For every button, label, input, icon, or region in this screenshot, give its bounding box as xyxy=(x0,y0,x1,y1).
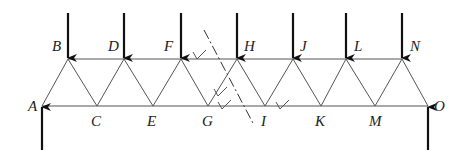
member-BC xyxy=(68,59,97,106)
member-JK xyxy=(293,59,321,106)
joint-label-o: O xyxy=(434,98,445,114)
member-CD xyxy=(97,59,124,106)
truss-svg: ABCDEFGHIJKLMNO xyxy=(0,0,466,158)
joint-label-d: D xyxy=(107,38,119,54)
member-HI xyxy=(237,59,265,106)
joint-label-e: E xyxy=(146,113,156,129)
check-mark-icon xyxy=(276,100,289,109)
member-NO xyxy=(402,59,428,106)
member-DE xyxy=(124,59,153,106)
joint-label-f: F xyxy=(163,38,174,54)
member-AB xyxy=(42,59,68,106)
joint-label-m: M xyxy=(368,113,383,129)
member-EF xyxy=(153,59,181,106)
check-mark-icon xyxy=(193,50,206,59)
joint-label-a: A xyxy=(27,98,38,114)
joint-label-l: L xyxy=(353,38,362,54)
joint-label-n: N xyxy=(409,38,421,54)
joint-label-k: K xyxy=(314,113,326,129)
member-MN xyxy=(375,59,402,106)
check-mark-icon xyxy=(218,100,231,109)
joint-label-c: C xyxy=(91,113,102,129)
load-arrows xyxy=(42,13,428,150)
member-FG xyxy=(181,59,208,106)
joint-label-j: J xyxy=(300,38,308,54)
joint-label-i: I xyxy=(260,113,267,129)
joint-label-h: H xyxy=(243,38,256,54)
joint-label-b: B xyxy=(52,38,61,54)
joint-label-g: G xyxy=(202,113,213,129)
check-mark-icon xyxy=(214,87,227,96)
member-LM xyxy=(346,59,375,106)
member-KL xyxy=(321,59,346,106)
truss-members xyxy=(42,59,428,106)
truss-diagram: ABCDEFGHIJKLMNO xyxy=(0,0,466,158)
member-IJ xyxy=(265,59,293,106)
